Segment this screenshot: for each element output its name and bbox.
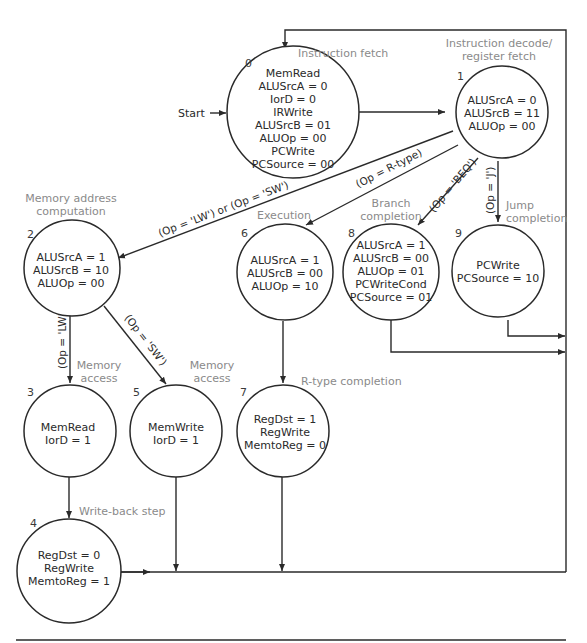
signal: ALUSrcA = 1 <box>250 254 319 267</box>
signal: ALUOp = 00 <box>468 120 535 133</box>
state-number: 0 <box>245 57 252 70</box>
state-3[interactable]: 3 Memory access MemRead IorD = 1 <box>24 359 122 477</box>
signal: ALUOp = 10 <box>251 280 318 293</box>
state-number: 4 <box>30 517 37 530</box>
state-4[interactable]: 4 Write-back step RegDst = 0 RegWrite Me… <box>17 505 165 623</box>
state-caption: Instruction decode/ <box>446 37 553 50</box>
state-caption: Memory <box>77 359 122 372</box>
state-7[interactable]: 7 R-type completion RegDst = 1 RegWrite … <box>237 375 402 477</box>
signal: ALUSrcB = 00 <box>353 252 429 265</box>
start-transition: Start <box>178 107 226 120</box>
signal: ALUSrcA = 0 <box>258 80 327 93</box>
signal: ALUSrcB = 00 <box>247 267 323 280</box>
signal: RegDst = 0 <box>38 549 101 562</box>
signal: ALUSrcB = 10 <box>33 264 109 277</box>
signal: PCSource = 01 <box>350 291 432 304</box>
signal: MemRead <box>266 67 321 80</box>
state-number: 6 <box>241 227 248 240</box>
signal: ALUOp = 00 <box>37 277 104 290</box>
signal: IorD = 0 <box>270 93 316 106</box>
state-number: 7 <box>240 386 247 399</box>
signal: RegDst = 1 <box>254 413 317 426</box>
state-9[interactable]: 9 Jump completion PCWrite PCSource = 10 <box>452 199 567 317</box>
signal: MemWrite <box>148 421 204 434</box>
state-caption: Branch <box>372 197 411 210</box>
signal: ALUSrcA = 1 <box>356 239 425 252</box>
signal: ALUSrcB = 11 <box>464 107 540 120</box>
signal: ALUSrcB = 01 <box>255 119 331 132</box>
j-condition: (Op = 'J') <box>484 167 496 214</box>
state-caption: access <box>193 372 230 385</box>
signal: IorD = 1 <box>45 434 91 447</box>
signal: ALUOp = 01 <box>357 265 424 278</box>
fsm-diagram: Start (Op = 'LW') or (Op = 'SW') (Op = R… <box>0 0 587 643</box>
lw-condition: (Op = 'LW') <box>56 309 68 369</box>
state-number: 3 <box>27 386 34 399</box>
signal: ALUSrcA = 1 <box>36 251 105 264</box>
state-2[interactable]: 2 Memory address computation ALUSrcA = 1… <box>24 192 120 316</box>
signal: IRWrite <box>273 106 313 119</box>
state-8[interactable]: 8 Branch completion ALUSrcA = 1 ALUSrcB … <box>343 197 439 320</box>
signal: PCWrite <box>476 259 520 272</box>
state-caption: Instruction fetch <box>298 47 388 60</box>
signal: IorD = 1 <box>153 434 199 447</box>
state-caption: Memory address <box>25 192 117 205</box>
signal: MemtoReg = 0 <box>244 439 326 452</box>
state-5[interactable]: 5 Memory access MemWrite IorD = 1 <box>130 359 235 477</box>
state-caption: R-type completion <box>301 375 402 388</box>
state-caption: Write-back step <box>79 505 165 518</box>
start-label: Start <box>178 107 206 120</box>
signal: PCSource = 00 <box>252 158 334 171</box>
signal: MemRead <box>41 421 96 434</box>
state-caption: computation <box>36 205 106 218</box>
state-caption: register fetch <box>462 50 536 63</box>
state-1[interactable]: 1 Instruction decode/ register fetch ALU… <box>446 37 553 158</box>
state-6[interactable]: 6 Execution ALUSrcA = 1 ALUSrcB = 00 ALU… <box>237 209 333 320</box>
state-number: 2 <box>27 228 34 241</box>
signal: ALUOp = 00 <box>259 132 326 145</box>
state-number: 8 <box>348 227 355 240</box>
state-caption: completion <box>360 210 421 223</box>
state-number: 1 <box>457 70 464 83</box>
state-number: 5 <box>133 386 140 399</box>
state-caption: access <box>80 372 117 385</box>
state-caption: Memory <box>190 359 235 372</box>
signal: RegWrite <box>260 426 310 439</box>
state-caption: completion <box>506 212 567 225</box>
state-caption: Jump <box>505 199 534 212</box>
signal: RegWrite <box>44 562 94 575</box>
signal: MemtoReg = 1 <box>28 575 110 588</box>
signal: PCWriteCond <box>355 278 427 291</box>
beq-condition: (Op = 'BEQ') <box>426 156 478 215</box>
signal: PCWrite <box>271 145 315 158</box>
signal: PCSource = 10 <box>457 272 539 285</box>
state-caption: Execution <box>257 209 311 222</box>
state-number: 9 <box>455 227 462 240</box>
signal: ALUSrcA = 0 <box>467 94 536 107</box>
